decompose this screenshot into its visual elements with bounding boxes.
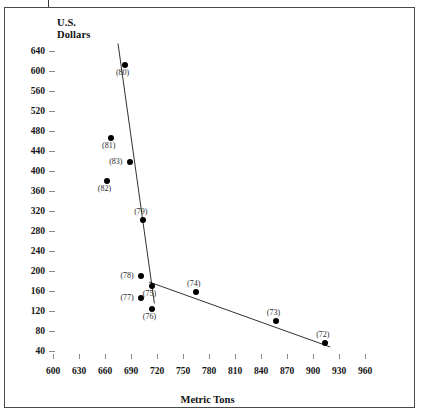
trend-lines (5, 8, 416, 409)
data-point-label: (77) (120, 293, 133, 302)
data-point-label: (72) (316, 330, 329, 339)
data-point-label: (75) (143, 289, 156, 298)
x-axis-title: Metric Tons (5, 394, 416, 405)
data-point-label: (76) (143, 312, 156, 321)
data-point-label: (78) (120, 271, 133, 280)
top-stray-tick (48, 0, 49, 7)
data-point-label: (74) (187, 279, 200, 288)
trend-line-steep-line (118, 44, 154, 304)
plot-area: U.S. Dollars 408012016020024028032036040… (5, 8, 416, 409)
data-point-label: (81) (102, 141, 115, 150)
data-point-label: (82) (98, 184, 111, 193)
data-point (193, 289, 199, 295)
data-point-label: (80) (116, 68, 129, 77)
data-point (273, 318, 279, 324)
figure-root: U.S. Dollars 408012016020024028032036040… (0, 0, 421, 414)
trend-line-shallow-line (149, 282, 330, 347)
data-point-label: (73) (267, 308, 280, 317)
data-point (140, 217, 146, 223)
data-point (138, 295, 144, 301)
x-axis-title-text: Metric Tons (181, 394, 235, 405)
data-point-label: (83) (109, 157, 122, 166)
data-point-label: (79) (134, 207, 147, 216)
chart-frame: U.S. Dollars 408012016020024028032036040… (4, 7, 415, 408)
